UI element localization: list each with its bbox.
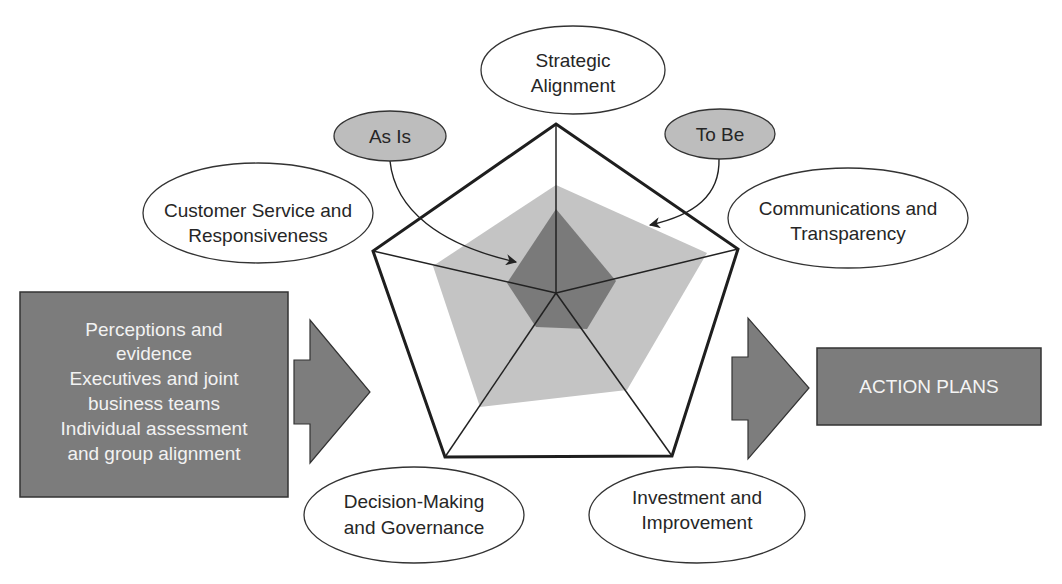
input-box-line-5: Individual assessment (61, 418, 249, 439)
dimension-strategic-alignment: Strategic Alignment (481, 26, 665, 114)
dimension-investment-improvement: Investment and Improvement (589, 467, 805, 563)
dimension-label-line-1: Strategic (536, 50, 611, 71)
radar-chart (373, 124, 738, 457)
dimension-label-line-1: Communications and (759, 198, 937, 219)
as-is-tag: As Is (334, 111, 446, 161)
dimension-label-line-2: Improvement (642, 512, 754, 533)
action-plans-label: ACTION PLANS (859, 376, 998, 397)
dimension-label-line-1: Customer Service and (164, 200, 352, 221)
dimension-label-line-1: Decision-Making (344, 491, 484, 512)
spider-diagram: Perceptions and evidence Executives and … (0, 0, 1062, 584)
input-box-line-2: evidence (116, 343, 192, 364)
dimension-decision-making-governance: Decision-Making and Governance (304, 467, 524, 563)
to-be-callout-arrow (650, 159, 719, 225)
dimension-label-line-2: Alignment (531, 75, 616, 96)
action-plans-box: ACTION PLANS (817, 348, 1041, 425)
dimension-customer-service-responsiveness: Customer Service and Responsiveness (143, 163, 373, 263)
input-box-line-6: and group alignment (67, 443, 241, 464)
dimension-label-line-2: Transparency (790, 223, 906, 244)
flow-arrow-in-icon (294, 320, 370, 463)
to-be-tag: To Be (665, 109, 775, 159)
dimension-communications-transparency: Communications and Transparency (728, 168, 968, 268)
input-box: Perceptions and evidence Executives and … (20, 292, 288, 497)
dimension-label-line-2: Responsiveness (188, 225, 327, 246)
dimension-label-line-1: Investment and (632, 487, 762, 508)
input-box-line-1: Perceptions and (85, 319, 222, 340)
to-be-label: To Be (696, 124, 745, 145)
as-is-label: As Is (369, 126, 411, 147)
input-box-line-4: business teams (88, 393, 220, 414)
dimension-label-line-2: and Governance (344, 517, 485, 538)
input-box-line-3: Executives and joint (70, 368, 240, 389)
flow-arrow-out-icon (732, 318, 809, 459)
